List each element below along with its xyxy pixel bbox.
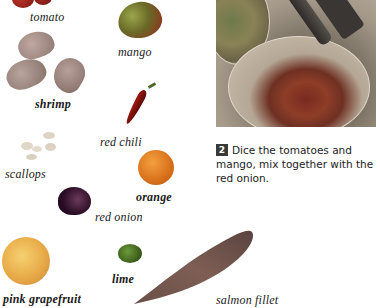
- mango-image: [115, 0, 166, 42]
- step-instruction: 2Dice the tomatoes and mango, mix togeth…: [216, 143, 380, 185]
- step-text: Dice the tomatoes and mango, mix togethe…: [216, 144, 373, 184]
- label-tomato: tomato: [30, 10, 65, 25]
- label-lime: lime: [112, 272, 134, 287]
- red-onion-image: [58, 187, 91, 215]
- bowl-diced-tomato: [228, 36, 370, 127]
- label-scallops: scallops: [5, 167, 46, 182]
- step-photo: [216, 0, 376, 127]
- scallops-image: [17, 130, 62, 164]
- orange-image: [138, 150, 174, 185]
- shrimp-image: [6, 32, 88, 94]
- label-pink-grapefruit: pink grapefruit: [3, 292, 81, 307]
- tomato-image: [12, 0, 52, 8]
- pink-grapefruit-image: [2, 237, 50, 285]
- label-shrimp: shrimp: [35, 97, 71, 112]
- step-number-badge: 2: [216, 144, 228, 156]
- label-mango: mango: [118, 45, 152, 60]
- red-chili-image: [122, 84, 158, 126]
- label-red-chili: red chili: [100, 135, 142, 150]
- label-salmon-fillet: salmon fillet: [216, 293, 278, 308]
- label-orange: orange: [136, 190, 172, 205]
- label-red-onion: red onion: [95, 210, 143, 225]
